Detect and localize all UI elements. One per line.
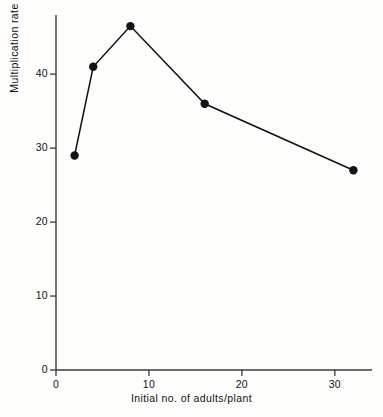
data-point-marker — [89, 63, 97, 71]
plot-canvas — [0, 0, 383, 417]
x-axis-tick-label: 30 — [322, 378, 348, 390]
y-axis-tick-label: 0 — [22, 363, 48, 375]
chart-figure: Multiplication rate Initial no. of adult… — [0, 0, 383, 417]
y-axis-tick-label: 10 — [22, 289, 48, 301]
x-axis-tick-label: 10 — [136, 378, 162, 390]
y-axis-tick-label: 20 — [22, 215, 48, 227]
y-axis-tick-label: 40 — [22, 67, 48, 79]
y-axis-title: Multiplication rate — [8, 0, 26, 128]
data-point-marker — [126, 22, 134, 30]
x-axis-tick-label: 0 — [43, 378, 69, 390]
data-point-marker — [201, 100, 209, 108]
y-axis-ticks — [50, 74, 56, 370]
data-point-marker — [70, 151, 78, 159]
data-line — [75, 26, 354, 170]
x-axis-ticks — [56, 370, 335, 376]
x-axis-tick-label: 20 — [229, 378, 255, 390]
x-axis-title: Initial no. of adults/plant — [0, 392, 383, 404]
y-axis-tick-label: 30 — [22, 141, 48, 153]
data-point-marker — [349, 166, 357, 174]
